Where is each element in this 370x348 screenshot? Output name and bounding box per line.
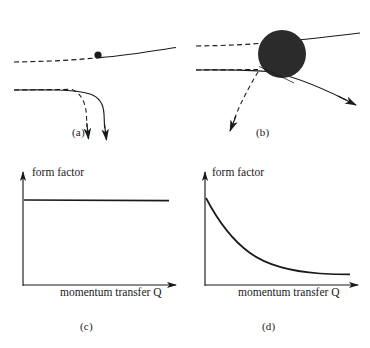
panel-label-b: (b) xyxy=(256,126,269,138)
extended-target-circle xyxy=(258,30,306,78)
panel-b-dashed-arrow xyxy=(230,116,236,131)
panel-c-plot xyxy=(23,172,176,286)
panel-c-curve-constant xyxy=(24,200,169,201)
panel-c-y-axis-label: form factor xyxy=(32,166,84,178)
panel-d-x-axis-label: momentum transfer Q xyxy=(238,286,340,298)
panel-b-dashed-trajectory xyxy=(234,72,258,120)
panel-d-y-axis-label: form factor xyxy=(212,166,264,178)
panel-label-a: (a) xyxy=(72,126,85,138)
panel-a-upper-beam-dashed xyxy=(14,57,104,62)
panel-b-solid-arrow xyxy=(338,96,356,105)
panel-a-dashed-arrow xyxy=(87,123,89,139)
point-target-dot xyxy=(94,51,101,58)
panel-d-curve-decay xyxy=(206,198,350,274)
panel-d-plot xyxy=(205,172,358,286)
panel-b-diagram xyxy=(196,30,360,131)
panel-label-d: (d) xyxy=(262,320,275,332)
panel-a-solid-arrow xyxy=(105,124,107,140)
panel-c-x-axis-label: momentum transfer Q xyxy=(60,286,162,298)
panel-label-c: (c) xyxy=(80,320,93,332)
panel-a-lower-beam-solid-deflected xyxy=(14,90,105,128)
panel-a-upper-beam-solid xyxy=(100,48,176,58)
panel-a-dashed-trajectory xyxy=(72,89,87,127)
panel-a-diagram xyxy=(14,48,176,141)
scattering-form-factor-figure: (a) (b) (c) (d) form factor momentum tra… xyxy=(0,0,370,348)
